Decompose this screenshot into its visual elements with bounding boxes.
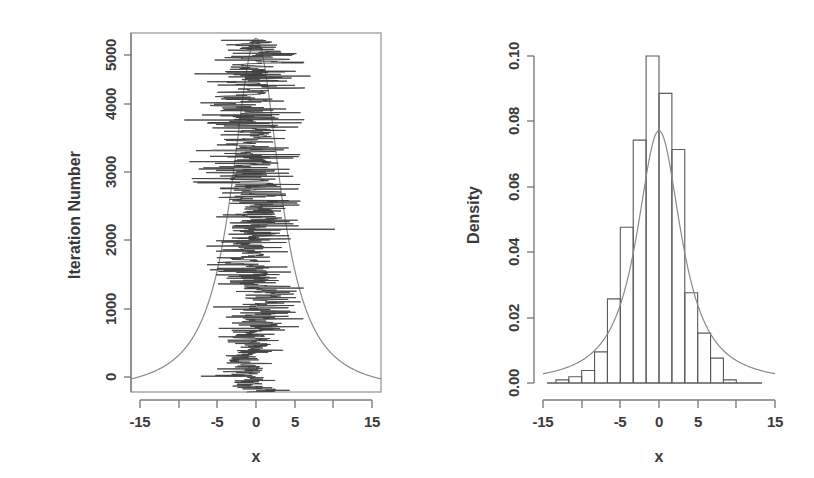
histogram-bar xyxy=(646,56,659,383)
trace-xtick-0: 0 xyxy=(252,413,260,430)
trace-x-axis xyxy=(140,400,372,408)
hist-xtick-15: 15 xyxy=(767,413,783,430)
trace-ytick-4000: 4000 xyxy=(102,88,119,120)
histogram-svg: 0.00 0.02 0.04 0.06 0.08 0.10 Density xyxy=(407,0,814,478)
histogram-bar xyxy=(620,227,633,383)
histogram-bar xyxy=(569,377,582,383)
hist-y-axis-title: Density xyxy=(465,186,482,244)
hist-xtick-neg5: -5 xyxy=(614,413,627,430)
hist-y-tick-labels: 0.00 0.02 0.04 0.06 0.08 0.10 xyxy=(505,42,522,397)
hist-x-axis xyxy=(543,400,775,408)
histogram-bar xyxy=(698,333,711,383)
hist-x-axis-title: x xyxy=(655,448,664,465)
trace-ytick-3000: 3000 xyxy=(102,156,119,188)
trace-ytick-5000: 5000 xyxy=(102,39,119,71)
histogram-bar xyxy=(685,293,698,383)
hist-ytick-008: 0.08 xyxy=(505,107,522,135)
hist-xtick-neg15: -15 xyxy=(533,413,554,430)
histogram-bars xyxy=(556,56,736,383)
histogram-bar xyxy=(672,149,685,383)
trace-xtick-neg5: -5 xyxy=(211,413,224,430)
trace-xtick-neg15: -15 xyxy=(130,413,151,430)
hist-ytick-010: 0.10 xyxy=(505,42,522,70)
trace-y-axis-title: Iteration Number xyxy=(66,151,83,279)
hist-xtick-0: 0 xyxy=(655,413,663,430)
histogram-bar xyxy=(633,140,646,383)
trace-ytick-1000: 1000 xyxy=(102,293,119,325)
histogram-bar xyxy=(711,358,724,383)
trace-ytick-2000: 2000 xyxy=(102,224,119,256)
histogram-bar xyxy=(659,93,672,383)
hist-ytick-002: 0.02 xyxy=(505,304,522,332)
figure-root: 0 1000 2000 3000 4000 5000 Iteration Num… xyxy=(0,0,814,478)
trace-x-tick-labels: -15 -5 0 5 15 xyxy=(130,413,380,430)
hist-ytick-004: 0.04 xyxy=(505,237,522,266)
hist-y-axis xyxy=(527,56,534,383)
trace-plot-svg: 0 1000 2000 3000 4000 5000 Iteration Num… xyxy=(0,0,407,478)
trace-y-axis xyxy=(124,33,131,392)
histogram-bar xyxy=(582,371,595,383)
mcmc-trace-path xyxy=(184,40,335,392)
trace-xtick-15: 15 xyxy=(364,413,380,430)
hist-x-tick-labels: -15 -5 0 5 15 xyxy=(533,413,783,430)
hist-xtick-5: 5 xyxy=(694,413,702,430)
trace-plot-panel: 0 1000 2000 3000 4000 5000 Iteration Num… xyxy=(0,0,407,478)
trace-y-tick-labels: 0 1000 2000 3000 4000 5000 xyxy=(102,39,119,381)
hist-ytick-006: 0.06 xyxy=(505,173,522,201)
histogram-panel: 0.00 0.02 0.04 0.06 0.08 0.10 Density xyxy=(407,0,814,478)
trace-ytick-0: 0 xyxy=(102,373,119,381)
histogram-bar xyxy=(595,352,608,383)
trace-xtick-5: 5 xyxy=(291,413,299,430)
trace-x-axis-title: x xyxy=(252,448,261,465)
hist-ytick-000: 0.00 xyxy=(505,369,522,397)
